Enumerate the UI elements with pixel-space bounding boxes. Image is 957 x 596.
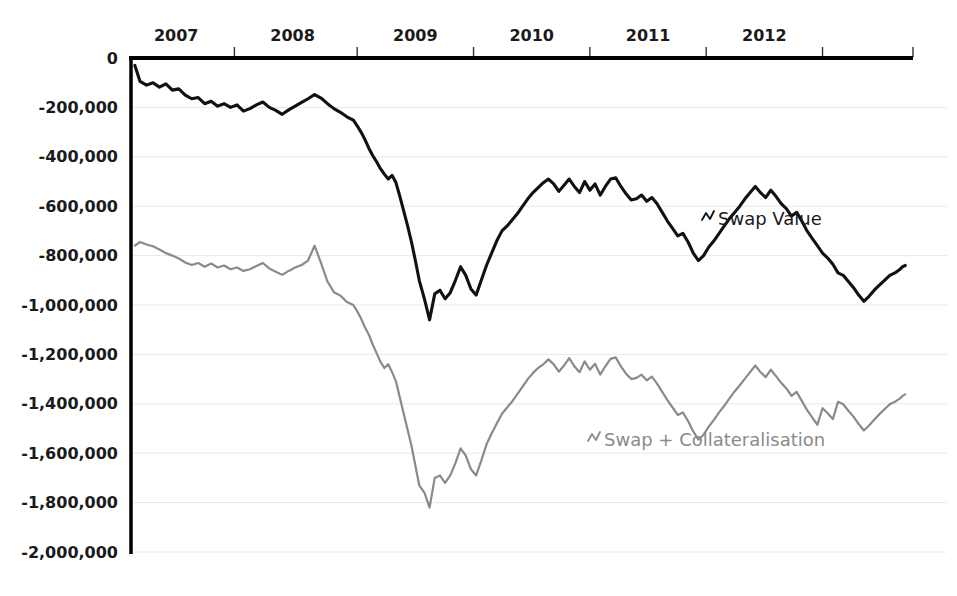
chart-container: 0-200,000-400,000-600,000-800,000-1,000,… (0, 0, 957, 596)
x-axis-tick-label: 2010 (509, 26, 554, 45)
y-axis-tick-label: -800,000 (38, 246, 118, 265)
x-axis-tick-label: 2012 (742, 26, 787, 45)
y-axis-tick-label: -1,400,000 (21, 394, 118, 413)
x-axis-tick-label: 2007 (154, 26, 199, 45)
y-axis-tick-label: -600,000 (38, 197, 118, 216)
series-label-text: Swap + Collateralisation (604, 429, 825, 450)
x-axis-tick-label: 2011 (626, 26, 671, 45)
chart-background (0, 0, 957, 596)
x-axis-tick-label: 2008 (270, 26, 315, 45)
y-axis-tick-label: -1,200,000 (21, 345, 118, 364)
y-axis-tick-label: 0 (107, 49, 118, 68)
y-axis-tick-label: -2,000,000 (21, 543, 118, 562)
series-label-text: Swap Value (718, 208, 822, 229)
line-chart: 0-200,000-400,000-600,000-800,000-1,000,… (0, 0, 957, 596)
y-axis-tick-label: -200,000 (38, 98, 118, 117)
swap-collateralisation-label: Swap + Collateralisation (588, 429, 825, 450)
swap-value-label: Swap Value (702, 208, 822, 229)
y-axis-tick-label: -1,000,000 (21, 296, 118, 315)
y-axis-tick-label: -1,600,000 (21, 444, 118, 463)
y-axis-tick-label: -400,000 (38, 147, 118, 166)
x-axis-tick-label: 2009 (393, 26, 438, 45)
y-axis-tick-label: -1,800,000 (21, 493, 118, 512)
